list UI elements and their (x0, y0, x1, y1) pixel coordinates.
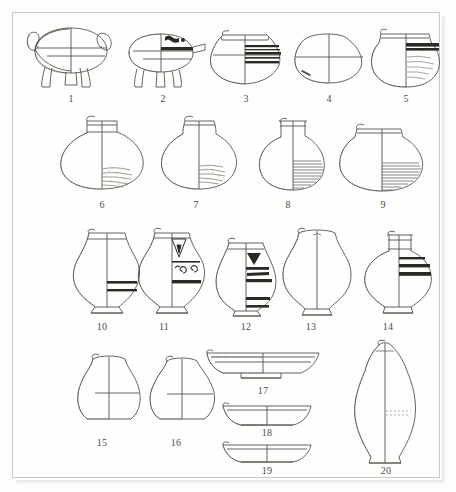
figure-9 (333, 121, 429, 199)
figure-label-1: 1 (56, 93, 86, 104)
figure-label-16: 16 (161, 437, 191, 448)
figure-label-2: 2 (148, 93, 178, 104)
figure-label-3: 3 (231, 93, 261, 104)
figure-label-12: 12 (231, 321, 261, 332)
pottery-typology-plate: 1 (0, 0, 456, 492)
figure-label-8: 8 (273, 199, 303, 210)
figure-label-10: 10 (87, 321, 117, 332)
figure-5 (365, 21, 447, 95)
figure-8 (249, 113, 335, 197)
figure-13 (277, 223, 357, 319)
figure-label-19: 19 (252, 465, 282, 476)
figure-label-7: 7 (181, 199, 211, 210)
figure-label-9: 9 (368, 199, 398, 210)
figure-4 (287, 25, 371, 95)
figure-label-15: 15 (87, 437, 117, 448)
plate-frame: 1 (12, 12, 440, 478)
figure-6 (53, 111, 153, 197)
figure-label-20: 20 (371, 465, 401, 476)
figure-label-14: 14 (373, 321, 403, 332)
figure-1 (21, 21, 117, 93)
figure-12 (209, 231, 285, 319)
figure-label-11: 11 (149, 321, 179, 332)
figure-14 (355, 227, 441, 319)
figure-label-5: 5 (391, 93, 421, 104)
figure-label-17: 17 (248, 385, 278, 396)
figure-20 (341, 337, 431, 469)
figure-7 (153, 111, 247, 197)
figure-15 (71, 349, 147, 431)
figure-label-6: 6 (87, 199, 117, 210)
figure-label-13: 13 (296, 321, 326, 332)
figure-11 (131, 223, 213, 319)
figure-label-4: 4 (314, 93, 344, 104)
figure-17 (201, 347, 325, 383)
figure-label-18: 18 (252, 427, 282, 438)
figure-3 (203, 23, 289, 95)
figure-2 (117, 27, 209, 95)
